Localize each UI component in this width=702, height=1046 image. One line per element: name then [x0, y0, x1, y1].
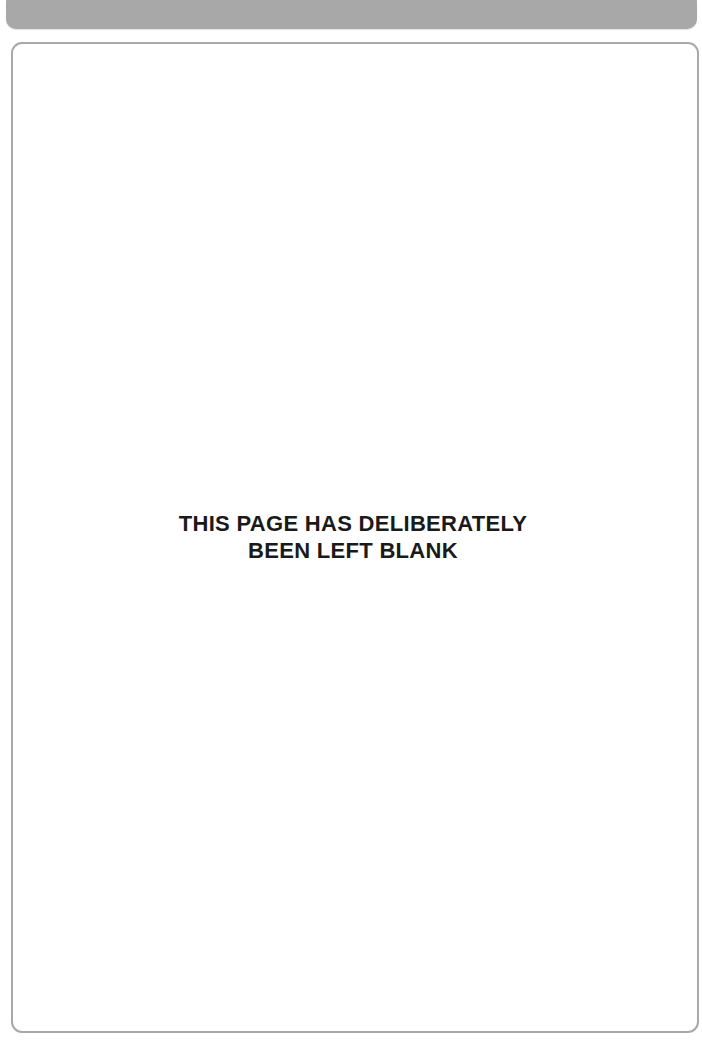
- blank-page-notice: THIS PAGE HAS DELIBERATELY BEEN LEFT BLA…: [0, 510, 702, 564]
- blank-notice-line-2: BEEN LEFT BLANK: [0, 537, 702, 564]
- blank-notice-line-1: THIS PAGE HAS DELIBERATELY: [0, 510, 702, 537]
- header-bar: [6, 0, 697, 29]
